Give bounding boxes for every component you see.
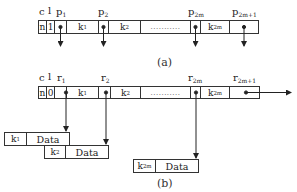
pointer-arrows [0,0,297,192]
